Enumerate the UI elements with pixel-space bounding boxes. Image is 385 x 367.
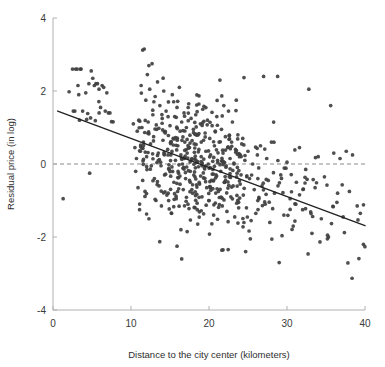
data-point — [239, 155, 243, 159]
data-point — [175, 244, 179, 248]
data-point — [194, 125, 198, 129]
data-point — [193, 154, 197, 158]
data-point — [141, 162, 145, 166]
data-point — [241, 217, 245, 221]
data-point — [288, 208, 292, 212]
data-point — [195, 185, 199, 189]
data-point — [166, 148, 170, 152]
x-axis: 010203040 — [50, 306, 371, 329]
data-point — [202, 212, 206, 216]
data-point — [157, 126, 161, 130]
data-point — [256, 208, 260, 212]
x-tick-label: 30 — [281, 318, 293, 329]
data-point — [208, 155, 212, 159]
data-point — [76, 84, 80, 88]
data-point — [152, 135, 156, 139]
data-point — [194, 177, 198, 181]
data-point — [185, 126, 189, 130]
data-point — [145, 155, 149, 159]
data-point — [212, 140, 216, 144]
data-point — [270, 237, 274, 241]
data-point — [138, 119, 142, 123]
data-point — [190, 139, 194, 143]
data-point — [160, 113, 164, 117]
data-point — [346, 261, 350, 265]
data-point — [175, 127, 179, 131]
data-point — [319, 217, 323, 221]
data-point — [246, 149, 250, 153]
data-point — [204, 106, 208, 110]
data-point — [350, 276, 354, 280]
data-point — [181, 162, 185, 166]
data-point — [236, 133, 240, 137]
data-point — [326, 237, 330, 241]
data-point — [87, 82, 91, 86]
data-point — [243, 154, 247, 158]
data-point — [138, 202, 142, 206]
data-point — [348, 190, 352, 194]
data-point — [197, 102, 201, 106]
data-point — [257, 166, 261, 170]
data-point — [256, 199, 260, 203]
data-point — [183, 149, 187, 153]
data-point — [161, 76, 165, 80]
data-point — [246, 215, 250, 219]
data-point — [185, 138, 189, 142]
data-point — [156, 80, 160, 84]
data-point — [183, 204, 187, 208]
data-point — [79, 67, 83, 71]
data-point — [193, 151, 197, 155]
data-point — [156, 180, 160, 184]
data-point — [267, 200, 271, 204]
data-point — [208, 137, 212, 141]
data-point — [172, 100, 176, 104]
data-point — [196, 222, 200, 226]
data-point — [318, 240, 322, 244]
data-point — [164, 109, 168, 113]
data-point — [220, 94, 224, 98]
data-point — [363, 245, 367, 249]
data-point — [89, 116, 93, 120]
data-point — [199, 140, 203, 144]
data-point — [164, 172, 168, 176]
data-point — [215, 99, 219, 103]
data-point — [254, 211, 258, 215]
data-point — [204, 180, 208, 184]
data-point — [141, 159, 145, 163]
data-point — [336, 191, 340, 195]
data-point — [291, 224, 295, 228]
data-point — [236, 137, 240, 141]
data-point — [237, 206, 241, 210]
data-point — [290, 228, 294, 232]
data-point — [153, 95, 157, 99]
data-point — [177, 176, 181, 180]
data-point — [187, 207, 191, 211]
data-point — [146, 131, 150, 135]
data-point — [323, 175, 327, 179]
data-point — [234, 109, 238, 113]
data-point — [222, 104, 226, 108]
data-point — [203, 131, 207, 135]
data-point — [151, 152, 155, 156]
data-point — [207, 199, 211, 203]
data-point — [143, 119, 147, 123]
data-point — [338, 157, 342, 161]
data-point — [141, 48, 145, 52]
data-point — [202, 176, 206, 180]
data-point — [356, 218, 360, 222]
data-point — [344, 149, 348, 153]
data-point — [213, 144, 217, 148]
data-point — [325, 183, 329, 187]
data-point — [357, 257, 361, 261]
x-tick-label: 40 — [359, 318, 371, 329]
data-point — [152, 139, 156, 143]
data-point — [224, 135, 228, 139]
data-point — [167, 134, 171, 138]
data-point — [226, 220, 230, 224]
data-point — [156, 154, 160, 158]
data-point — [195, 192, 199, 196]
data-point — [262, 75, 266, 79]
data-point — [309, 210, 313, 214]
data-point — [138, 208, 142, 212]
data-point — [265, 157, 269, 161]
